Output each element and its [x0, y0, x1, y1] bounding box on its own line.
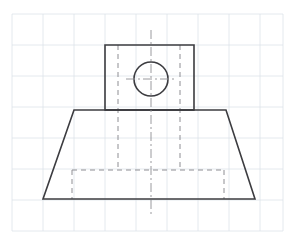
technical-drawing-canvas — [0, 0, 295, 243]
drawing-background — [0, 0, 295, 243]
orthographic-drawing-svg — [0, 0, 295, 243]
